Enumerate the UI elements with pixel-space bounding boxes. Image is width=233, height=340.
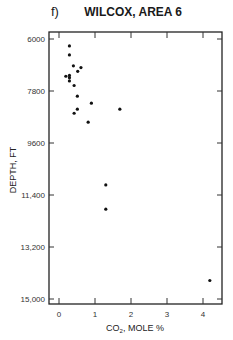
y-tick-label: 15,000 [21,295,46,304]
data-point [104,183,107,186]
x-axis-ticks: 01234 [57,32,206,319]
data-point [90,102,93,105]
data-point [208,279,211,282]
data-point [76,95,79,98]
data-point [87,121,90,124]
data-point [79,66,82,69]
data-point [118,108,121,111]
data-point [68,79,71,82]
x-tick-label: 1 [93,310,98,319]
data-point [68,53,71,56]
scatter-plot: 60007800960011,40013,20015,000 01234 DEP… [0,0,233,340]
x-tick-label: 0 [57,310,62,319]
data-point [104,208,107,211]
data-point [73,84,76,87]
data-point [64,75,67,78]
y-tick-label: 11,400 [21,191,45,200]
data-point [73,112,76,115]
data-point [76,108,79,111]
y-tick-label: 6000 [27,35,45,44]
y-axis-label: DEPTH, FT [8,146,18,193]
data-point [76,70,79,73]
y-tick-label: 9600 [27,139,45,148]
x-axis-label: CO2, MOLE % [106,323,164,334]
data-points [64,44,211,282]
x-tick-label: 3 [165,310,170,319]
plot-frame [49,32,222,304]
data-point [72,64,75,67]
data-point [68,76,71,79]
data-point [68,44,71,47]
y-tick-label: 7800 [27,87,45,96]
x-tick-label: 4 [201,310,206,319]
x-tick-label: 2 [129,310,134,319]
y-tick-label: 13,200 [21,243,46,252]
y-axis-ticks: 60007800960011,40013,20015,000 [21,35,222,304]
